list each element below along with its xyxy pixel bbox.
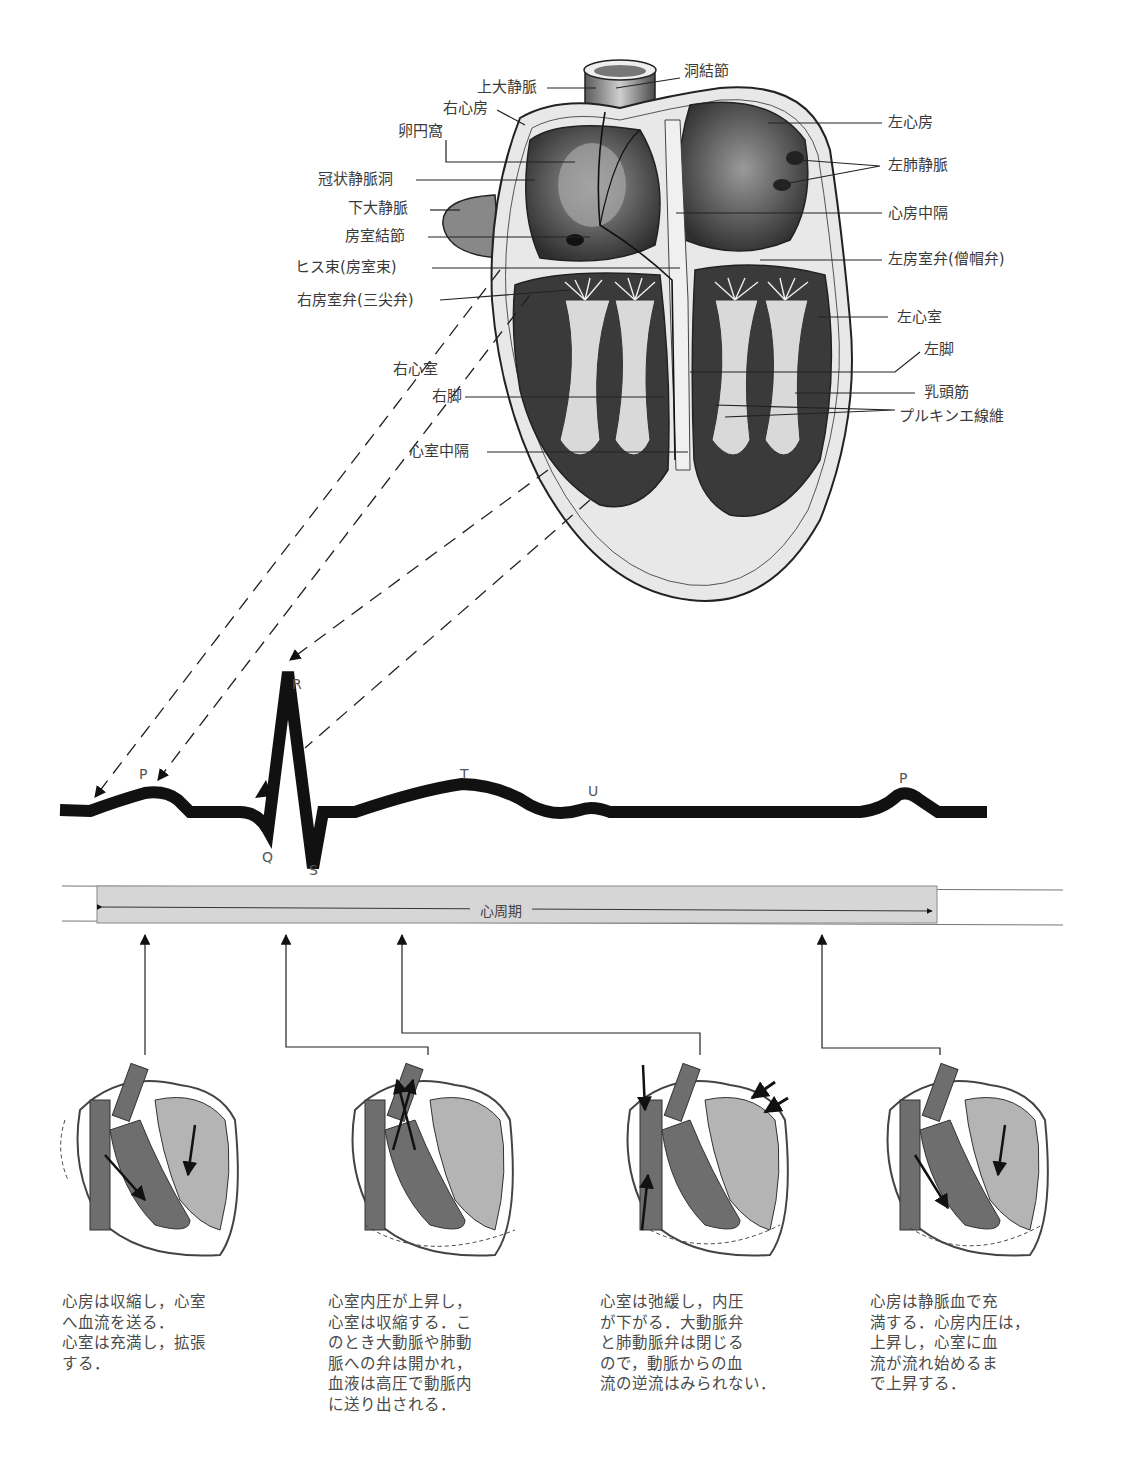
label-purkinje-fibers: プルキンエ線維 bbox=[899, 409, 1004, 424]
label-atrial-septum: 心房中隔 bbox=[888, 206, 948, 221]
wave-label-r: R bbox=[292, 677, 302, 691]
phase-description-ventricular-systole: 心室内圧が上昇し， 心室は収縮する．こ のとき大動脈や肺動 脈への弁は開かれ， … bbox=[328, 1292, 472, 1415]
wave-label-u: U bbox=[588, 784, 598, 798]
label-superior-vena-cava: 上大静脈 bbox=[477, 80, 537, 95]
wave-label-p-next: P bbox=[899, 771, 907, 785]
phase-heart-4 bbox=[888, 1063, 1048, 1255]
label-ventricular-septum: 心室中隔 bbox=[409, 444, 469, 459]
wave-label-p: P bbox=[139, 767, 147, 781]
phase-heart-3 bbox=[628, 1063, 789, 1255]
cardiac-cycle-bar bbox=[62, 886, 1063, 925]
phase-heart-1 bbox=[61, 1063, 238, 1255]
label-inferior-vena-cava: 下大静脈 bbox=[348, 201, 408, 216]
label-sa-node: 洞結節 bbox=[684, 64, 729, 79]
label-bundle-of-his: ヒス束(房室束) bbox=[295, 260, 397, 275]
phase-description-atrial-systole: 心房は収縮し，心室 へ血流を送る． 心室は充満し，拡張 する． bbox=[62, 1292, 206, 1374]
label-coronary-sinus: 冠状静脈洞 bbox=[318, 172, 393, 187]
label-mitral-valve: 左房室弁(僧帽弁) bbox=[888, 252, 1005, 267]
label-left-atrium: 左心房 bbox=[888, 115, 933, 130]
label-left-pulmonary-veins: 左肺静脈 bbox=[888, 158, 948, 173]
wave-label-s: S bbox=[309, 863, 318, 877]
label-right-bundle-branch: 右脚 bbox=[432, 389, 462, 404]
phase-description-ventricular-relaxation: 心室は弛緩し，内圧 が下がる．大動脈弁 と肺動脈弁は閉じる ので，動脈からの血 … bbox=[600, 1292, 776, 1395]
label-papillary-muscle: 乳頭筋 bbox=[924, 385, 969, 400]
phase-heart-2 bbox=[353, 1063, 516, 1255]
label-right-ventricle: 右心室 bbox=[393, 362, 438, 377]
wave-label-t: T bbox=[460, 767, 469, 781]
label-av-node: 房室結節 bbox=[345, 229, 405, 244]
label-left-ventricle: 左心室 bbox=[897, 310, 942, 325]
cardiac-cycle-label: 心周期 bbox=[470, 903, 532, 919]
phase-description-atrial-filling: 心房は静脈血で充 満する．心房内圧は， 上昇し，心室に血 流が流れ始めるま で上… bbox=[870, 1292, 1030, 1395]
label-tricuspid-valve: 右房室弁(三尖弁) bbox=[297, 293, 414, 308]
wave-label-q: Q bbox=[262, 850, 273, 864]
label-fossa-ovalis: 卵円窩 bbox=[398, 124, 443, 139]
label-right-atrium: 右心房 bbox=[443, 101, 488, 116]
ecg-trace bbox=[60, 672, 987, 868]
label-left-bundle-branch: 左脚 bbox=[924, 342, 954, 357]
diagram-canvas bbox=[0, 0, 1122, 1479]
heart-cross-section bbox=[443, 60, 852, 601]
phase-connectors bbox=[145, 935, 940, 1055]
